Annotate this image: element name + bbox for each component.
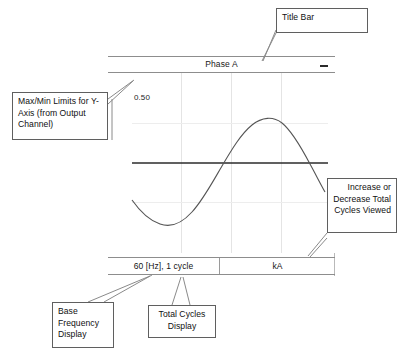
- leader-basefreq-2: [88, 276, 150, 302]
- y-axis-max-label: 0.50: [134, 93, 150, 102]
- window-title: Phase A: [108, 59, 335, 69]
- leader-cycles-1: [172, 277, 181, 305]
- annotation-max-min-limits: Max/Min Limits for Y-Axis (from Output C…: [12, 92, 108, 140]
- annotation-total-cycles-display: Total Cycles Display: [148, 305, 216, 338]
- units-display[interactable]: kA: [220, 258, 335, 274]
- annotation-base-frequency-display: Base Frequency Display: [52, 302, 114, 348]
- phase-plot-window: Phase A 0.50 -0.50: [108, 56, 335, 276]
- plot-area[interactable]: 0.50 -0.50: [108, 73, 335, 253]
- waveform-trace: [132, 118, 325, 225]
- leader-basefreq-1: [104, 275, 152, 302]
- annotation-increase-decrease-cycles: Increase or Decrease Total Cycles Viewed: [327, 178, 397, 233]
- window-title-bar: Phase A: [108, 56, 335, 73]
- base-frequency-display[interactable]: 60 [Hz], 1 cycle: [108, 258, 220, 274]
- minimize-button[interactable]: [320, 62, 329, 69]
- leader-cycles-2: [183, 277, 190, 305]
- status-bar: 60 [Hz], 1 cycle kA: [108, 257, 335, 275]
- annotation-title-bar: Title Bar: [276, 8, 368, 33]
